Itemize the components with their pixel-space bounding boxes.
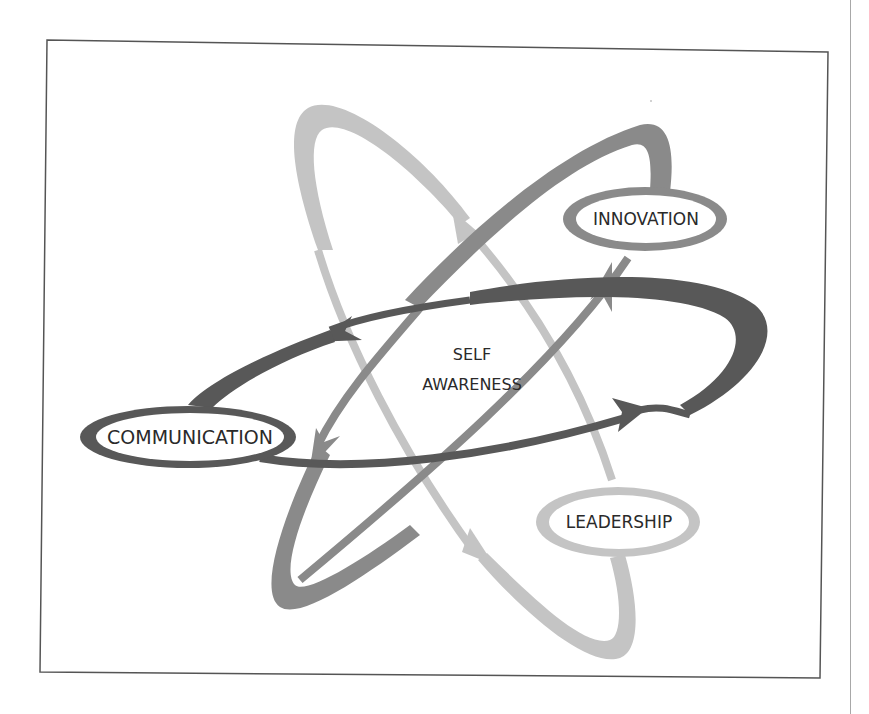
innovation-label: INNOVATION <box>593 209 699 229</box>
node-communication[interactable]: COMMUNICATION <box>80 406 296 468</box>
light-orbit-top-arc <box>294 105 470 250</box>
medium-orbit-bottom-arc <box>271 445 420 609</box>
leadership-label: LEADERSHIP <box>566 512 672 532</box>
center-label-line2: AWARENESS <box>422 375 522 394</box>
print-speck <box>650 100 652 102</box>
dark-arrowhead-right-icon <box>612 398 648 432</box>
node-innovation[interactable]: INNOVATION <box>563 187 727 251</box>
dark-orbit-bottom-join <box>640 408 690 415</box>
dark-orbit-left-arc <box>188 330 335 408</box>
communication-label: COMMUNICATION <box>107 426 273 448</box>
center-label: SELF AWARENESS <box>422 345 522 394</box>
diagram-frame <box>40 40 828 678</box>
center-label-line1: SELF <box>453 345 491 364</box>
node-leadership[interactable]: LEADERSHIP <box>536 487 700 557</box>
light-orbit-bottom-arc <box>478 553 636 659</box>
orbit-diagram: COMMUNICATION INNOVATION LEADERSHIP SELF… <box>0 0 869 714</box>
